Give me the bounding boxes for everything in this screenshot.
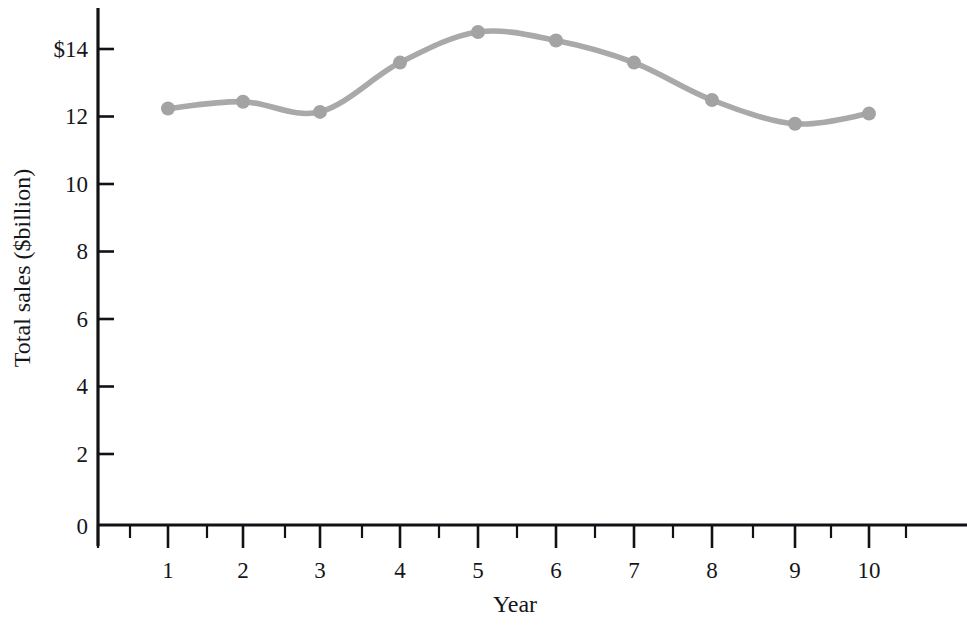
x-tick-label: 4 (394, 558, 406, 583)
data-point (393, 56, 407, 70)
x-axis-tick-labels: 1 2 3 4 5 6 7 8 9 10 (162, 558, 880, 583)
y-axis-tick-labels: $14 12 10 8 6 4 2 0 (54, 37, 89, 539)
data-point (161, 102, 175, 116)
y-tick-label: 12 (65, 104, 88, 129)
x-tick-label: 3 (314, 558, 326, 583)
data-point (862, 107, 876, 121)
data-point (705, 93, 719, 107)
x-axis-minor-ticks (98, 525, 906, 548)
line-chart: $14 12 10 8 6 4 2 0 (0, 0, 967, 637)
series-markers (161, 25, 876, 131)
y-tick-label: 0 (77, 514, 89, 539)
data-point (549, 34, 563, 48)
x-tick-label: 5 (472, 558, 484, 583)
x-tick-label: 1 (162, 558, 174, 583)
x-tick-label: 8 (706, 558, 718, 583)
y-tick-label: 2 (77, 442, 89, 467)
data-point (313, 105, 327, 119)
x-tick-label: 6 (550, 558, 562, 583)
data-series (161, 25, 876, 131)
data-point (627, 56, 641, 70)
y-tick-label: 8 (77, 239, 89, 264)
x-tick-label: 2 (237, 558, 249, 583)
y-tick-label: 4 (77, 374, 89, 399)
x-axis-major-ticks (168, 525, 869, 548)
y-tick-label: 6 (77, 307, 89, 332)
x-tick-label: 10 (858, 558, 881, 583)
x-axis-title: Year (493, 591, 537, 617)
data-point (236, 95, 250, 109)
data-point (471, 25, 485, 39)
y-axis-ticks (98, 49, 114, 454)
chart-canvas: $14 12 10 8 6 4 2 0 (0, 0, 967, 637)
x-tick-label: 7 (628, 558, 640, 583)
y-tick-label: $14 (54, 37, 89, 62)
series-line (168, 31, 869, 124)
y-axis-title: Total sales ($billion) (9, 169, 35, 367)
data-point (788, 117, 802, 131)
y-tick-label: 10 (65, 172, 88, 197)
x-tick-label: 9 (789, 558, 801, 583)
